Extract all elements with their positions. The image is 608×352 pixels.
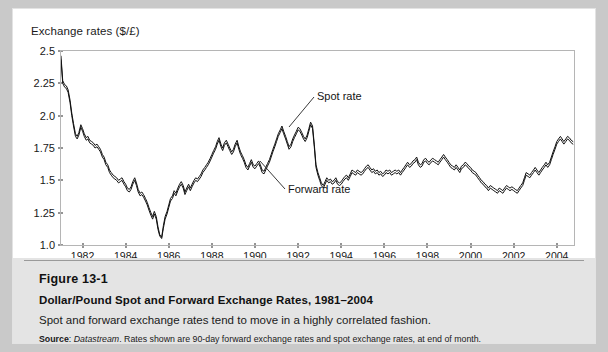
exchange-rate-lines — [61, 51, 574, 245]
forward-rate-line — [61, 60, 573, 238]
spot-rate-line — [61, 56, 573, 237]
plot-area — [61, 51, 574, 245]
y-tick-label: 2.25 — [17, 77, 55, 89]
y-tick-label: 1.75 — [17, 142, 55, 154]
source-publication: Datastream — [74, 334, 119, 344]
source-label: Source — [39, 334, 69, 344]
caption-panel: Figure 13-1 Dollar/Pound Spot and Forwar… — [13, 258, 595, 343]
caption-divider — [24, 260, 584, 261]
chart-axis-title: Exchange rates ($/£) — [31, 25, 140, 37]
chart-panel: Exchange rates ($/£) 2.52.252.01.751.51.… — [13, 9, 595, 258]
figure-card: Exchange rates ($/£) 2.52.252.01.751.51.… — [13, 9, 595, 343]
source-rest: . Rates shown are 90-day forward exchang… — [119, 334, 481, 344]
figure-number: Figure 13-1 — [39, 272, 108, 286]
y-tick-label: 1.25 — [17, 207, 55, 219]
figure-source: Source: Datastream. Rates shown are 90-d… — [39, 334, 481, 344]
y-tick-label: 1.5 — [17, 174, 55, 186]
figure-description: Spot and forward exchange rates tend to … — [39, 314, 431, 326]
y-tick-label: 2.5 — [17, 45, 55, 57]
figure-title: Dollar/Pound Spot and Forward Exchange R… — [39, 294, 373, 306]
y-tick-label: 2.0 — [17, 110, 55, 122]
y-tick-label: 1.0 — [17, 239, 55, 251]
